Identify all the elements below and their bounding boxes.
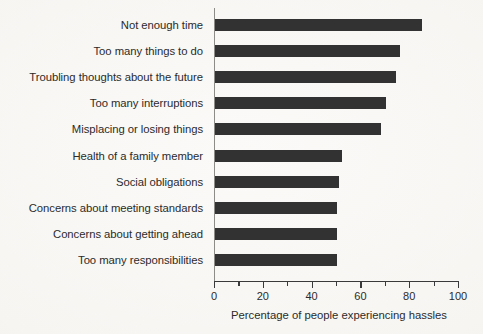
bar xyxy=(215,97,386,109)
bar xyxy=(215,228,337,240)
x-axis-tick-label: 100 xyxy=(449,290,467,302)
bar xyxy=(215,123,381,135)
category-label: Concerns about getting ahead xyxy=(53,228,203,240)
x-axis-minor-tick xyxy=(434,282,435,286)
x-axis-title: Percentage of people experiencing hassle… xyxy=(214,309,464,321)
x-axis-tick-label: 40 xyxy=(305,290,317,302)
category-label: Misplacing or losing things xyxy=(72,123,203,135)
bar xyxy=(215,71,396,83)
bar xyxy=(215,150,342,162)
horizontal-bar-chart: Not enough timeToo many things to doTrou… xyxy=(0,0,483,334)
x-axis-tick xyxy=(263,282,264,288)
x-axis-minor-tick xyxy=(336,282,337,286)
x-axis-minor-tick xyxy=(287,282,288,286)
x-axis-minor-tick xyxy=(385,282,386,286)
category-label: Not enough time xyxy=(121,19,203,31)
x-axis-tick-label: 80 xyxy=(403,290,415,302)
x-axis-tick-label: 60 xyxy=(354,290,366,302)
category-label: Social obligations xyxy=(116,176,203,188)
x-axis-tick xyxy=(360,282,361,288)
x-axis-tick xyxy=(458,282,459,288)
category-label: Concerns about meeting standards xyxy=(29,202,203,214)
bar xyxy=(215,19,422,31)
x-axis-tick xyxy=(409,282,410,288)
plot-area: 020406080100 xyxy=(214,0,464,282)
bar xyxy=(215,254,337,266)
x-axis-tick xyxy=(312,282,313,288)
category-label: Health of a family member xyxy=(72,150,203,162)
x-axis-tick-label: 0 xyxy=(211,290,217,302)
bar xyxy=(215,202,337,214)
category-label: Too many responsibilities xyxy=(78,254,203,266)
x-axis-minor-tick xyxy=(238,282,239,286)
bar xyxy=(215,45,400,57)
x-axis-tick xyxy=(214,282,215,288)
category-label: Too many things to do xyxy=(94,45,203,57)
category-label: Troubling thoughts about the future xyxy=(29,71,203,83)
bar xyxy=(215,176,339,188)
category-axis-labels: Not enough timeToo many things to doTrou… xyxy=(0,0,209,282)
x-axis-tick-label: 20 xyxy=(257,290,269,302)
category-label: Too many interruptions xyxy=(90,97,203,109)
